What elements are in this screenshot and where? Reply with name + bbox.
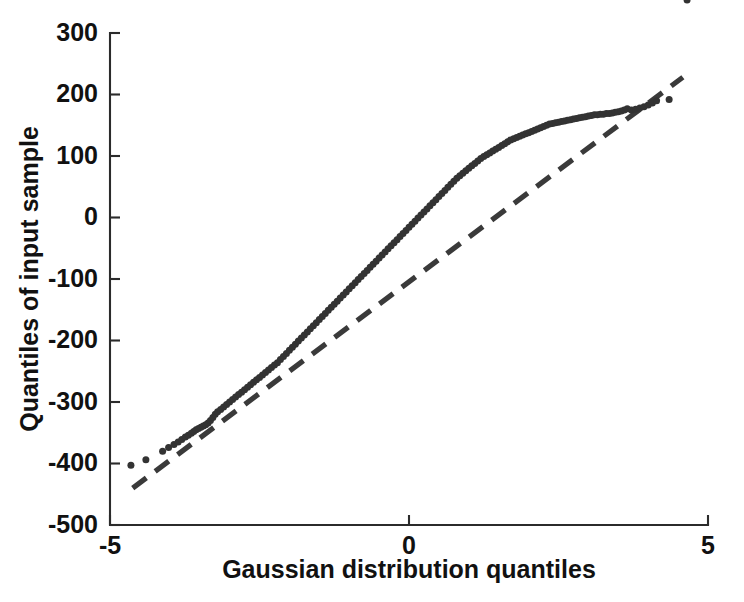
- data-point: [653, 97, 660, 104]
- y-tick-label-0: 0: [84, 202, 98, 230]
- y-axis-ticks: [110, 33, 120, 525]
- data-point-series: [127, 0, 690, 469]
- y-tick-label--300: -300: [48, 387, 98, 415]
- y-tick-label--400: -400: [48, 448, 98, 476]
- plot-canvas: 3002001000-100-200-300-400-500 -505 Gaus…: [0, 0, 744, 602]
- x-tick-label-5: 5: [701, 531, 715, 559]
- reference-line: [133, 77, 683, 488]
- y-tick-label-200: 200: [56, 79, 98, 107]
- y-tick-label-300: 300: [56, 18, 98, 46]
- y-axis-tick-labels: 3002001000-100-200-300-400-500: [48, 18, 98, 538]
- qq-plot-figure: 3002001000-100-200-300-400-500 -505 Gaus…: [0, 0, 744, 602]
- x-axis-ticks: [110, 515, 708, 525]
- y-tick-label--100: -100: [48, 264, 98, 292]
- data-point: [142, 456, 149, 463]
- data-point: [666, 96, 673, 103]
- data-point: [127, 462, 134, 469]
- data-point: [684, 0, 691, 4]
- x-tick-label--5: -5: [99, 531, 121, 559]
- y-axis-title: Quantiles of input sample: [15, 126, 43, 432]
- y-tick-label-100: 100: [56, 141, 98, 169]
- y-tick-label--200: -200: [48, 325, 98, 353]
- y-tick-label--500: -500: [48, 510, 98, 538]
- data-point: [159, 448, 166, 455]
- x-axis-title: Gaussian distribution quantiles: [222, 555, 596, 583]
